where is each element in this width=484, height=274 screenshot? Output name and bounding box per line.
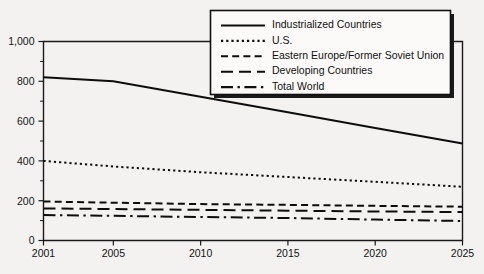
- line-chart-figure: 02004006008001,000 200120052010201520202…: [0, 0, 484, 274]
- y-tick-label: 600: [17, 115, 35, 127]
- legend-label-1: U.S.: [272, 34, 292, 46]
- x-tick-label: 2001: [32, 247, 56, 259]
- y-axis: 02004006008001,000: [8, 35, 43, 246]
- legend-label-2: Eastern Europe/Former Soviet Union: [272, 49, 444, 61]
- chart-canvas: 02004006008001,000 200120052010201520202…: [0, 0, 484, 274]
- chart-legend: Industrialized CountriesU.S.Eastern Euro…: [211, 11, 455, 99]
- y-tick-label: 0: [29, 234, 35, 246]
- legend-label-3: Developing Countries: [272, 64, 372, 76]
- x-tick-label: 2010: [189, 247, 213, 259]
- x-axis: 200120052010201520202025: [32, 241, 475, 260]
- y-tick-label: 800: [17, 75, 35, 87]
- series-line-4: [44, 215, 463, 221]
- x-tick-label: 2005: [102, 247, 126, 259]
- series-line-3: [44, 208, 463, 212]
- x-tick-label: 2020: [364, 247, 388, 259]
- data-series-group: [44, 77, 463, 221]
- y-tick-label: 1,000: [8, 35, 34, 47]
- legend-label-4: Total World: [272, 80, 324, 92]
- series-line-2: [44, 202, 463, 207]
- x-tick-label: 2025: [451, 247, 475, 259]
- x-tick-label: 2015: [276, 247, 300, 259]
- series-line-1: [44, 161, 463, 187]
- y-tick-label: 400: [17, 155, 35, 167]
- legend-label-0: Industrialized Countries: [272, 18, 382, 30]
- y-tick-label: 200: [17, 195, 35, 207]
